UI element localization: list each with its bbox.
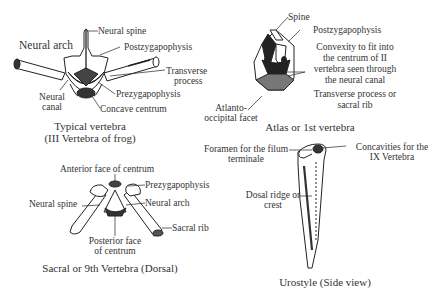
caption-typical-vertebra: Typical vertebra [30, 120, 150, 132]
label-prezygapophysis: Prezygapophysis [116, 89, 180, 99]
label-spine: Spine [288, 12, 310, 22]
label-atlas-postzygapophysis: Postzygapophysis [313, 25, 381, 35]
caption-urostyle: Urostyle (Side view) [270, 276, 380, 288]
label-sacral-prezygapophysis: Prezygapophysis [145, 180, 209, 190]
label-transverse-sacral-1: Transverse process or [300, 89, 410, 99]
label-anterior-face: Anterior face of centrum [60, 164, 154, 174]
caption-sacral: Sacral or 9th Vertebra (Dorsal) [30, 262, 190, 274]
caption-atlas: Atlas or 1st vertebra [240, 121, 380, 133]
label-sacral-neural-spine: Neural spine [29, 199, 77, 209]
atlas-vertebra-drawing [254, 30, 294, 90]
label-atlanto-1: Atlanto- [196, 103, 266, 113]
label-convexity-4: the neural canal [300, 75, 410, 85]
label-sacral-neural-arch: Neural arch [145, 198, 190, 208]
caption-typical-vertebra-sub: (III Vertebra of frog) [30, 132, 150, 144]
label-foramen-2: terminale [196, 154, 296, 164]
label-concavities-1: Concavities for the [346, 142, 438, 152]
label-posterior-face-1: Posterior face [80, 236, 150, 246]
label-neural-canal-1: Neural [36, 92, 68, 102]
label-transverse-process-2: process [174, 76, 203, 86]
vertebrae-figure: Neural spine Neural arch Postzygapophysi… [0, 0, 439, 301]
label-transverse-process-1: Transverse [166, 66, 207, 76]
label-sacral-rib: Sacral rib [172, 223, 209, 233]
label-postzygapophysis: Postzygapophysis [124, 42, 192, 52]
label-neural-spine: Neural spine [98, 26, 146, 36]
label-dorsal-ridge-1: Dosal ridge or [240, 190, 306, 200]
label-dorsal-ridge-2: crest [240, 200, 306, 210]
label-convexity-3: vertebra seen through [300, 64, 410, 74]
label-convexity-1: Convexity to fit into [300, 42, 410, 52]
label-concave-centrum: Concave centrum [100, 104, 167, 114]
label-convexity-2: the centrum of II [300, 53, 410, 63]
label-neural-arch: Neural arch [19, 39, 73, 51]
label-concavities-2: IX Vertebra [346, 152, 438, 162]
label-posterior-face-2: of centrum [80, 246, 150, 256]
label-neural-canal-2: canal [36, 102, 68, 112]
label-foramen-1: Foramen for the filum [196, 144, 296, 154]
label-transverse-sacral-2: sacral rib [300, 100, 410, 110]
